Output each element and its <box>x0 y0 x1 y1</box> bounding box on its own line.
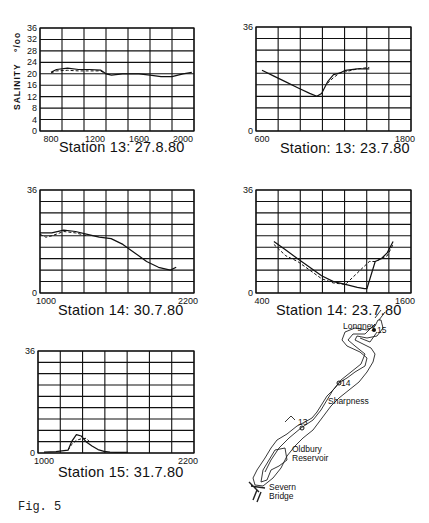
y-tick-label: 4 <box>32 115 37 125</box>
chart-svg: 0366001800 <box>215 0 429 160</box>
y-axis-label: SALINITY <box>12 63 22 110</box>
chart-svg: 04812162024283236800120016002000SALINITY… <box>0 0 215 160</box>
chart-station13-27-8-80: 04812162024283236800120016002000SALINITY… <box>0 0 215 160</box>
chart-svg: 0364001600 <box>215 160 429 320</box>
series-solid <box>51 68 192 77</box>
map-label-sharpness: Sharpness <box>328 396 369 406</box>
chart-svg: 03610002200 <box>0 320 215 480</box>
y-tick-label: 0 <box>248 288 253 298</box>
map-label-station-15: 15 <box>377 325 387 335</box>
x-tick-label: 1000 <box>34 456 54 466</box>
x-tick-label: 800 <box>43 134 58 144</box>
x-tick-label: 1000 <box>36 296 56 306</box>
y-tick-label: 36 <box>27 185 37 195</box>
series-dashed <box>274 244 393 284</box>
y-tick-label: 16 <box>27 80 37 90</box>
chart-station13-23-7-80: 0366001800 <box>215 0 429 160</box>
map-label-station-13: 13 <box>298 417 308 427</box>
chart-title: Station 14: 30.7.80 <box>58 302 184 318</box>
y-tick-label: 32 <box>27 34 37 44</box>
y-tick-label: 8 <box>32 103 37 113</box>
y-tick-label: 0 <box>32 126 37 136</box>
y-tick-label: 24 <box>27 57 37 67</box>
x-tick-label: 600 <box>254 134 269 144</box>
chart-station15-31-7-80: 03610002200 <box>0 320 215 480</box>
map-label-station-14: 14 <box>341 378 351 388</box>
chart-station14-30-7-80: 03610002200 <box>0 160 215 320</box>
chart-station14-23-7-80: 0364001600 <box>215 160 429 320</box>
y-tick-label: 36 <box>243 185 253 195</box>
series-solid <box>44 435 128 453</box>
y-tick-label: 36 <box>243 22 253 32</box>
x-tick-label: 400 <box>254 296 269 306</box>
chart-title: Station 15: 31.7.80 <box>58 464 184 480</box>
y-tick-label: 0 <box>248 126 253 136</box>
y-tick-label: 20 <box>27 69 37 79</box>
svg-text:°/oo: °/oo <box>12 32 22 52</box>
river-outline-icon: Longney 15 14 Sharpness 13 Oldbury Reser… <box>215 310 429 523</box>
figure-caption: Fig. 5 <box>18 500 61 514</box>
map-label-bridge: Bridge <box>269 491 294 501</box>
y-tick-label: 36 <box>27 23 37 33</box>
chart-title: Station 13: 27.8.80 <box>59 139 185 155</box>
map-label-reservoir: Reservoir <box>292 453 329 463</box>
chart-title: Station: 13: 23.7.80 <box>280 140 410 156</box>
estuary-map: Longney 15 14 Sharpness 13 Oldbury Reser… <box>215 310 429 523</box>
y-tick-label: 12 <box>27 92 37 102</box>
y-tick-label: 28 <box>27 46 37 56</box>
y-tick-label: 36 <box>25 346 35 356</box>
map-label-longney: Longney <box>343 321 376 331</box>
series-dashed <box>68 438 90 450</box>
chart-svg: 03610002200 <box>0 160 215 320</box>
